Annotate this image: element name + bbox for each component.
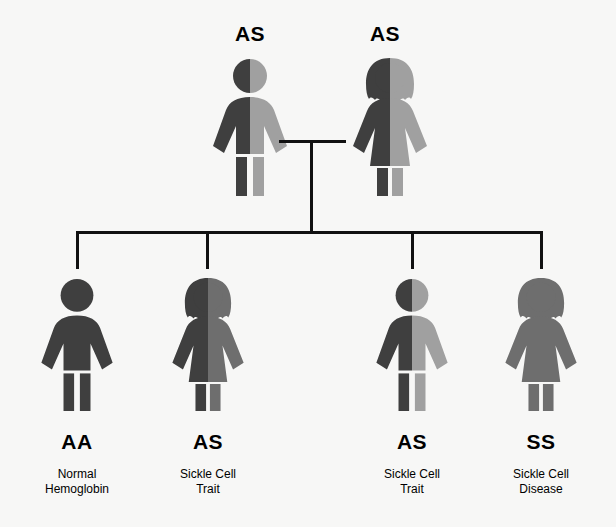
child-4-drop-line (540, 231, 543, 269)
child-2-phenotype-line-1: Sickle Cell (148, 467, 268, 482)
child-3-figure (372, 278, 452, 411)
child-2-genotype-label: AS (163, 430, 253, 454)
child-2-figure (166, 278, 250, 411)
sibling-line (76, 231, 543, 234)
descent-line (310, 140, 313, 233)
mother-genotype-label: AS (340, 22, 430, 46)
child-1-genotype-label: AA (32, 430, 122, 454)
child-2-phenotype-label: Sickle Cell Trait (148, 467, 268, 497)
male-pictogram-icon (372, 278, 452, 411)
child-4-figure (499, 278, 583, 411)
child-2-phenotype-line-2: Trait (148, 482, 268, 497)
child-4-phenotype-line-1: Sickle Cell (481, 467, 601, 482)
child-3-drop-line (411, 231, 414, 269)
child-3-genotype-label: AS (367, 430, 457, 454)
male-pictogram-icon (210, 58, 290, 196)
child-3-phenotype-line-2: Trait (352, 482, 472, 497)
child-3-phenotype-line-1: Sickle Cell (352, 467, 472, 482)
child-4-genotype-label: SS (496, 430, 586, 454)
child-4-phenotype-label: Sickle Cell Disease (481, 467, 601, 497)
female-pictogram-icon (348, 58, 432, 196)
female-pictogram-icon (166, 278, 250, 411)
pedigree-diagram: AS AS (0, 0, 616, 527)
female-pictogram-icon (499, 278, 583, 411)
child-1-drop-line (76, 231, 79, 269)
father-genotype-label: AS (205, 22, 295, 46)
child-1-figure (37, 278, 117, 411)
child-2-drop-line (206, 231, 209, 269)
child-1-phenotype-line-1: Normal (17, 467, 137, 482)
child-3-phenotype-label: Sickle Cell Trait (352, 467, 472, 497)
male-pictogram-icon (37, 278, 117, 411)
child-1-phenotype-label: Normal Hemoglobin (17, 467, 137, 497)
father-figure (210, 58, 290, 196)
child-1-phenotype-line-2: Hemoglobin (17, 482, 137, 497)
mother-figure (348, 58, 432, 196)
child-4-phenotype-line-2: Disease (481, 482, 601, 497)
